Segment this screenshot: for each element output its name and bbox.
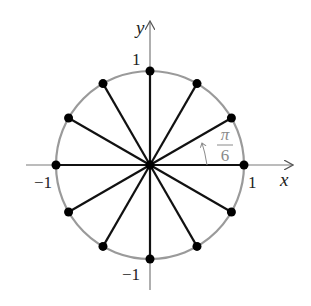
circle-point (99, 242, 108, 251)
circle-point (193, 242, 202, 251)
center-hub (146, 161, 155, 170)
unit-circle-diagram: π 6 y x 1 −1 1 −1 (0, 0, 311, 306)
x-tick-1: 1 (248, 173, 257, 192)
circle-point (193, 79, 202, 88)
circle-point (64, 208, 73, 217)
y-axis-label: y (134, 17, 145, 38)
circle-point (227, 208, 236, 217)
spoke (150, 165, 197, 246)
circle-point (99, 79, 108, 88)
circle-point (240, 161, 249, 170)
y-tick-neg1: −1 (122, 265, 140, 284)
circle-point (227, 114, 236, 123)
angle-label-denominator: 6 (221, 146, 230, 165)
x-tick-neg1: −1 (34, 173, 52, 192)
spoke (69, 118, 150, 165)
y-tick-1: 1 (132, 50, 141, 69)
circle-point (64, 114, 73, 123)
spoke (103, 165, 150, 246)
circle-point (146, 255, 155, 264)
x-axis-label: x (279, 169, 289, 190)
spoke (150, 118, 231, 165)
circle-point (52, 161, 61, 170)
diagram-canvas: π 6 y x 1 −1 1 −1 (0, 0, 311, 306)
spoke (103, 84, 150, 165)
angle-arc-arrow-icon (202, 143, 207, 165)
spoke (150, 84, 197, 165)
angle-label-numerator: π (221, 125, 230, 144)
spoke (150, 165, 231, 212)
circle-point (146, 67, 155, 76)
spoke (69, 165, 150, 212)
